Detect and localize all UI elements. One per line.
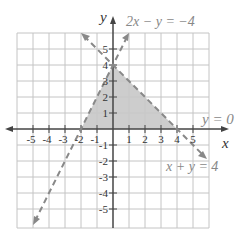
equation-label-y-0: y = 0 (200, 111, 234, 127)
x-axis-label: x (221, 135, 229, 151)
svg-text:-2: -2 (74, 133, 83, 145)
svg-text:-3: -3 (58, 133, 68, 145)
svg-text:5: 5 (190, 133, 196, 145)
svg-text:4: 4 (174, 133, 180, 145)
svg-text:-1: -1 (99, 139, 108, 151)
y-axis-arrow-icon (110, 16, 116, 24)
svg-text:3: 3 (158, 133, 164, 145)
svg-text:-5: -5 (99, 203, 109, 215)
graph: 5 4 3 2 1 -1 -2 -3 -4 -5 -5 -4 -3 -2 -1 … (0, 0, 239, 248)
x-axis-left-arrow-icon (5, 126, 13, 132)
equation-label-2x-y: 2x − y = −4 (126, 14, 195, 29)
arrow-icon (33, 216, 40, 225)
svg-text:1: 1 (103, 107, 109, 119)
x-tick-labels: -5 -4 -3 -2 -1 1 2 3 4 5 (26, 133, 196, 145)
svg-text:-2: -2 (99, 155, 108, 167)
svg-text:-1: -1 (90, 133, 99, 145)
svg-text:3: 3 (103, 75, 109, 87)
svg-text:2: 2 (103, 91, 109, 103)
svg-text:1: 1 (126, 133, 132, 145)
svg-text:4: 4 (103, 59, 109, 71)
svg-text:-5: -5 (26, 133, 36, 145)
svg-text:5: 5 (103, 43, 109, 55)
y-axis-label: y (98, 9, 107, 25)
svg-text:-3: -3 (99, 171, 109, 183)
equation-label-x-plus-y: x + y = 4 (165, 159, 218, 174)
svg-text:-4: -4 (42, 133, 52, 145)
svg-text:-4: -4 (99, 187, 109, 199)
svg-text:2: 2 (142, 133, 148, 145)
